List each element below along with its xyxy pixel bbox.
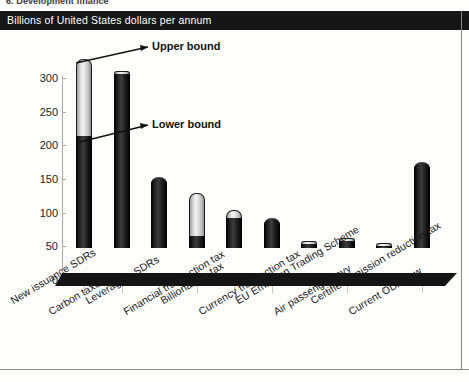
chart-banner-title: Billions of United States dollars per an…	[0, 11, 469, 30]
x-axis-labels: New issuance SDRsCarbon taxesLeveraging …	[0, 280, 469, 382]
page-frame-bottom	[0, 369, 469, 370]
page-caption-fragment: 6. Development finance	[6, 0, 109, 7]
chart-page: 6. Development finance Billions of Unite…	[0, 0, 469, 382]
page-frame-right	[461, 11, 462, 369]
lower-bound-label: Lower bound	[152, 118, 221, 130]
plot-area: 050100150200250300 Upper bound Lower bou…	[0, 30, 469, 382]
